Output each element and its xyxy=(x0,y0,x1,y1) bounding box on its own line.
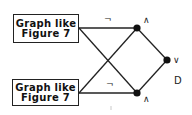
top-box-line1: Graph like xyxy=(16,19,77,29)
top-box-line2: Figure 7 xyxy=(21,29,70,39)
negation-label-bottom: ¬ xyxy=(106,80,114,89)
or-label: ∨ xyxy=(173,56,180,65)
bottom-graph-box: Graph like Figure 7 xyxy=(12,79,79,106)
top-graph-box: Graph like Figure 7 xyxy=(13,14,79,43)
bottom-box-line2: Figure 7 xyxy=(21,93,70,103)
bottom-box-line1: Graph like xyxy=(15,83,76,93)
graph-label-d: D xyxy=(174,76,182,85)
and-label-top: ∧ xyxy=(143,16,150,25)
edge-top-and-to-or xyxy=(137,28,167,60)
negation-label-top: ¬ xyxy=(104,15,112,24)
node-bottom-and xyxy=(133,89,140,96)
diagram-canvas: Graph like Figure 7 Graph like Figure 7 … xyxy=(0,0,192,115)
node-or xyxy=(163,56,170,63)
and-label-bottom: ∧ xyxy=(143,95,150,104)
edge-bottom-and-to-or xyxy=(137,60,167,93)
node-top-and xyxy=(133,24,140,31)
